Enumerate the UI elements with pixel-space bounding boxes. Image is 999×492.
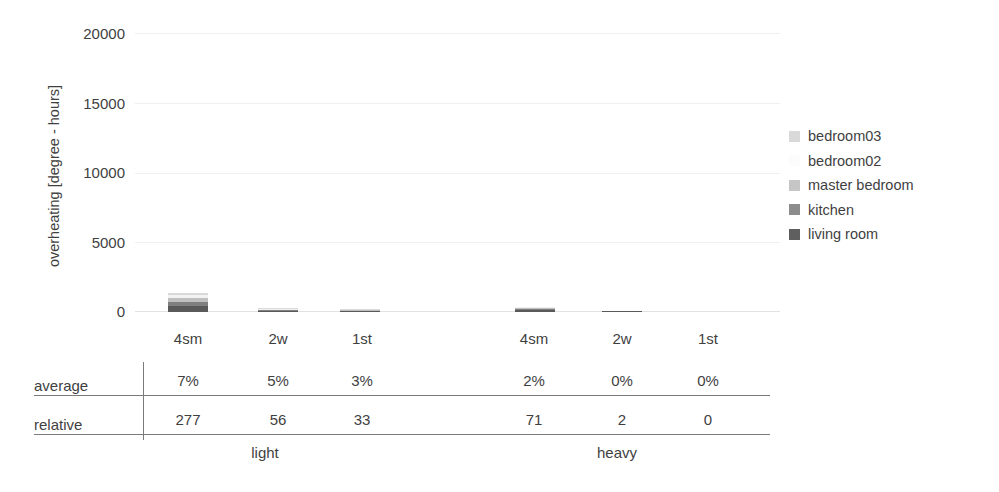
table-cell-average-light-2w: 5%	[243, 372, 313, 389]
legend-swatch-icon	[789, 131, 800, 142]
chart-figure: overheating [degree - hours] 20000 15000…	[0, 0, 999, 492]
gridline-10000	[135, 173, 780, 174]
legend-label: kitchen	[808, 202, 854, 218]
legend-item-master-bedroom[interactable]: master bedroom	[789, 173, 997, 198]
legend-label: bedroom02	[808, 153, 881, 169]
table-rule-after-relative	[34, 434, 770, 435]
x-label-heavy-2w: 2w	[587, 330, 657, 347]
bar-segment-living-room	[168, 306, 208, 312]
y-tick-5000: 5000	[55, 235, 125, 250]
table-cell-average-light-1st: 3%	[327, 372, 397, 389]
gridline-20000	[135, 33, 780, 34]
legend-swatch-icon	[789, 229, 800, 240]
y-tick-20000: 20000	[55, 26, 125, 41]
x-axis-tick-labels: 4sm 2w 1st 4sm 2w 1st	[135, 330, 780, 354]
chart-legend: bedroom03 bedroom02 master bedroom kitch…	[789, 124, 997, 247]
table-cell-relative-light-2w: 56	[243, 411, 313, 428]
y-axis-tick-labels: 20000 15000 10000 5000 0	[55, 33, 125, 312]
bar-heavy-2w[interactable]	[602, 311, 642, 312]
table-cell-relative-heavy-1st: 0	[673, 411, 743, 428]
table-rule-after-average	[34, 395, 770, 396]
table-cell-relative-light-1st: 33	[327, 411, 397, 428]
y-tick-10000: 10000	[55, 165, 125, 180]
legend-label: bedroom03	[808, 128, 881, 144]
group-label-heavy: heavy	[537, 444, 697, 461]
table-row-label-relative: relative	[34, 416, 138, 433]
legend-swatch-icon	[789, 180, 800, 191]
x-label-heavy-4sm: 4sm	[499, 330, 569, 347]
x-label-light-1st: 1st	[327, 330, 397, 347]
bar-light-1st[interactable]	[340, 309, 380, 312]
legend-item-bedroom03[interactable]: bedroom03	[789, 124, 997, 149]
bar-segment-living-room	[602, 311, 642, 312]
zero-axis-line	[135, 311, 780, 312]
legend-item-kitchen[interactable]: kitchen	[789, 198, 997, 223]
y-tick-0: 0	[55, 304, 125, 319]
bar-light-2w[interactable]	[258, 308, 298, 312]
table-cell-average-heavy-1st: 0%	[673, 372, 743, 389]
table-cell-average-light-4sm: 7%	[153, 372, 223, 389]
table-cell-average-heavy-4sm: 2%	[499, 372, 569, 389]
bar-segment-living-room	[258, 311, 298, 312]
bar-light-4sm[interactable]	[168, 293, 208, 312]
legend-item-living-room[interactable]: living room	[789, 222, 997, 247]
x-label-light-4sm: 4sm	[153, 330, 223, 347]
legend-swatch-icon	[789, 155, 800, 166]
legend-label: living room	[808, 226, 878, 242]
table-cell-relative-light-4sm: 277	[153, 411, 223, 428]
table-cell-average-heavy-2w: 0%	[587, 372, 657, 389]
table-vertical-divider	[143, 362, 144, 440]
legend-swatch-icon	[789, 204, 800, 215]
bar-segment-living-room	[515, 310, 555, 312]
bar-segment-living-room	[340, 311, 380, 312]
y-tick-15000: 15000	[55, 96, 125, 111]
bar-heavy-4sm[interactable]	[515, 307, 555, 312]
table-cell-relative-heavy-2w: 2	[587, 411, 657, 428]
legend-label: master bedroom	[808, 177, 914, 193]
table-row-label-average: average	[34, 377, 138, 394]
data-table: average relative 7% 5% 3% 2% 0% 0% 277 5…	[0, 358, 999, 478]
gridline-15000	[135, 103, 780, 104]
x-label-light-2w: 2w	[243, 330, 313, 347]
legend-item-bedroom02[interactable]: bedroom02	[789, 149, 997, 174]
group-label-light: light	[185, 444, 345, 461]
gridline-5000	[135, 242, 780, 243]
table-cell-relative-heavy-4sm: 71	[499, 411, 569, 428]
x-label-heavy-1st: 1st	[673, 330, 743, 347]
plot-area	[135, 33, 780, 312]
